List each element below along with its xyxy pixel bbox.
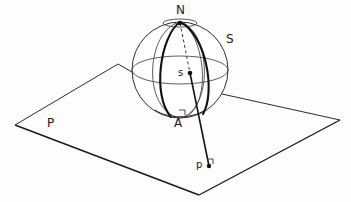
label-north-pole: N [176,4,185,16]
plane-edge-front-left [15,125,199,195]
stereographic-projection-figure: N S s A P p [0,0,351,202]
point-marker-p [207,164,211,168]
label-plane: P [47,117,54,129]
label-tangent-point: A [174,117,182,129]
diagram-canvas [0,0,351,202]
point-marker-s [188,71,193,76]
plane-edge-back-left [15,64,118,125]
plane-edge-front-right [199,120,340,195]
label-sphere-center: s [178,68,183,78]
label-sphere: S [226,33,234,45]
label-projected-point: p [196,160,202,170]
point-marker-N [178,21,183,26]
plane-edge-back-right-2 [222,94,340,120]
